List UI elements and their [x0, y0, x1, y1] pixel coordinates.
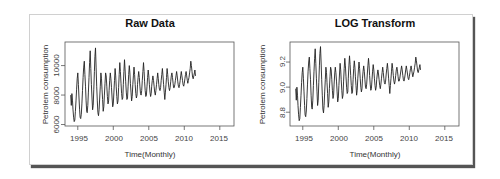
- log-series-line: [296, 47, 421, 121]
- plot-canvas: [0, 0, 500, 179]
- raw-series-line: [71, 48, 196, 122]
